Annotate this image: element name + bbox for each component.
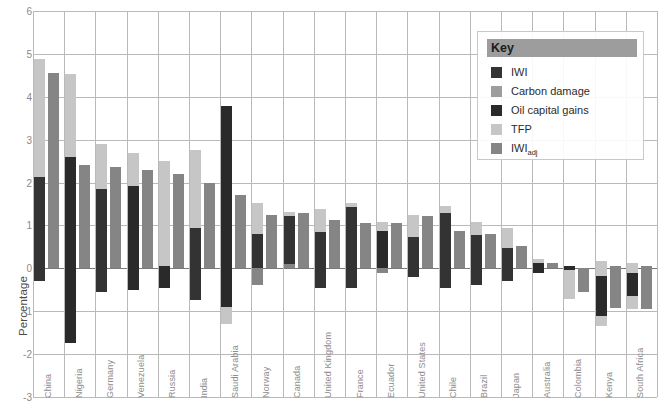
bar-segment-iwi-adj <box>391 223 402 268</box>
legend-label: IWI <box>511 65 528 80</box>
bar-segment <box>34 59 45 177</box>
bar-segment-iwi-adj <box>578 268 589 292</box>
y-axis-ticks: 6543210-1-2-3 <box>0 0 32 402</box>
bar-segment-iwi-adj <box>79 165 90 269</box>
y-tick-label: 5 <box>6 48 32 59</box>
x-axis-label: United Kingdom <box>323 332 333 398</box>
bar-segment-iwi-adj <box>235 195 246 268</box>
bar-segment <box>128 153 139 186</box>
bar-segment <box>96 189 107 292</box>
bar-segment <box>96 144 107 189</box>
bar-segment <box>440 213 451 287</box>
bar-segment <box>564 270 575 299</box>
bar-segment <box>377 222 388 231</box>
bar-segment-iwi-adj <box>516 246 527 268</box>
bar-segment-iwi-adj <box>204 183 215 268</box>
bar-segment <box>252 203 263 234</box>
x-axis-label: Germany <box>105 360 115 398</box>
bar-segment <box>408 215 419 238</box>
legend-label: Oil capital gains <box>511 103 589 118</box>
legend: Key IWICarbon damageOil capital gainsTFP… <box>477 31 644 160</box>
x-axis-label: Venezuela <box>136 355 146 398</box>
bar-segment <box>377 268 388 273</box>
x-axis-label: France <box>355 369 365 398</box>
chart-container: Percentage 6543210-1-2-3 ChinaNigeriaGer… <box>0 0 662 402</box>
y-tick-label: 6 <box>6 6 32 17</box>
bar-segment-iwi-adj <box>422 216 433 268</box>
legend-swatch <box>491 67 502 78</box>
bar-segment <box>440 206 451 213</box>
gridline-vertical <box>657 11 658 397</box>
legend-swatch <box>491 105 502 116</box>
legend-label: TFP <box>511 122 532 137</box>
bar-segment <box>315 209 326 232</box>
bar-segment-iwi-adj <box>173 174 184 268</box>
x-axis-label: Canada <box>292 366 302 398</box>
bar-segment <box>65 157 76 344</box>
x-axis-label: Saudi Arabia <box>230 345 240 398</box>
y-tick-label: -2 <box>6 349 32 360</box>
bar-segment-iwi-adj <box>610 266 621 308</box>
y-tick-label: 4 <box>6 91 32 102</box>
legend-swatch <box>491 124 502 135</box>
y-tick-label: 2 <box>6 177 32 188</box>
x-axis-label: Brazil <box>479 375 489 398</box>
bar-segment <box>221 106 232 307</box>
legend-label: Carbon damage <box>511 84 590 99</box>
bar-segment <box>159 266 170 287</box>
bar-segment-iwi-adj <box>329 220 340 268</box>
x-axis-label: Kenya <box>604 372 614 398</box>
bar-segment <box>315 232 326 288</box>
bar-segment-iwi-adj <box>485 234 496 268</box>
x-axis-label: China <box>43 374 53 398</box>
bar-segment <box>377 231 388 269</box>
bar-segment <box>471 235 482 286</box>
x-axis-labels: ChinaNigeriaGermanyVenezuelaRussiaIndiaS… <box>33 320 657 400</box>
bar-segment <box>128 186 139 290</box>
bar-segment <box>34 177 45 281</box>
bar-segment <box>533 263 544 274</box>
x-axis-label: India <box>199 378 209 398</box>
x-axis-label: United States <box>417 342 427 398</box>
x-axis-label: South Africa <box>635 348 645 398</box>
bar-segment-iwi-adj <box>547 263 558 268</box>
bar-segment <box>252 234 263 268</box>
bar-segment-iwi-adj <box>48 73 59 268</box>
x-axis-label: Ecuador <box>386 363 396 398</box>
bar-segment <box>471 222 482 235</box>
legend-label: IWIadj <box>511 141 538 160</box>
bar-segment-iwi-adj <box>110 167 121 268</box>
bar-segment-iwi-adj <box>641 266 652 309</box>
legend-swatch <box>491 86 502 97</box>
bar-segment <box>346 207 357 287</box>
x-axis-label: Australia <box>542 362 552 398</box>
bar-segment <box>284 264 295 268</box>
bar-segment <box>190 228 201 301</box>
x-axis-label: Colombia <box>573 359 583 398</box>
bar-segment <box>65 74 76 156</box>
bar-segment <box>284 216 295 264</box>
bar-segment <box>564 266 575 270</box>
bar-segment <box>502 248 513 281</box>
bar-segment <box>627 273 638 296</box>
x-axis-label: Russia <box>167 370 177 398</box>
bar-segment-iwi-adj <box>454 231 465 269</box>
y-tick-label: 1 <box>6 220 32 231</box>
bar-segment <box>190 150 201 227</box>
y-tick-label: -1 <box>6 306 32 317</box>
bar-segment <box>408 237 419 276</box>
bar-segment <box>159 161 170 266</box>
bar-segment <box>502 228 513 248</box>
legend-swatch <box>491 143 502 154</box>
y-tick-label: 3 <box>6 134 32 145</box>
x-axis-label: Chile <box>448 377 458 398</box>
x-axis-label: Norway <box>261 367 271 398</box>
bar-segment <box>596 276 607 315</box>
legend-title: Key <box>491 40 514 56</box>
x-axis-label: Nigeria <box>74 368 84 398</box>
bar-segment-iwi-adj <box>266 215 277 269</box>
y-tick-label: 0 <box>6 263 32 274</box>
x-axis-label: Japan <box>511 373 521 398</box>
y-tick-label: -3 <box>6 392 32 402</box>
bar-segment-iwi-adj <box>298 213 309 269</box>
